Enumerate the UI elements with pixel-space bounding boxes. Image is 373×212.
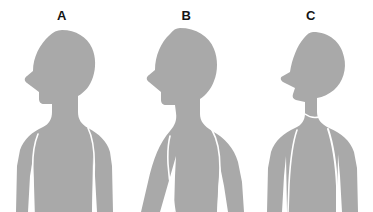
figure-panel-b: B [124,0,249,212]
silhouette-a-body [16,30,113,212]
panel-label-b: B [124,9,249,23]
silhouette-a [0,26,124,212]
silhouette-c [249,26,373,212]
silhouette-b-body [141,28,244,212]
silhouette-c-body [267,32,358,212]
silhouette-b [124,26,249,212]
posture-diagram: A B C [0,0,373,212]
figure-panel-a: A [0,0,124,212]
panel-label-a: A [0,9,124,23]
figure-panel-c: C [249,0,373,212]
panel-label-c: C [249,9,373,23]
